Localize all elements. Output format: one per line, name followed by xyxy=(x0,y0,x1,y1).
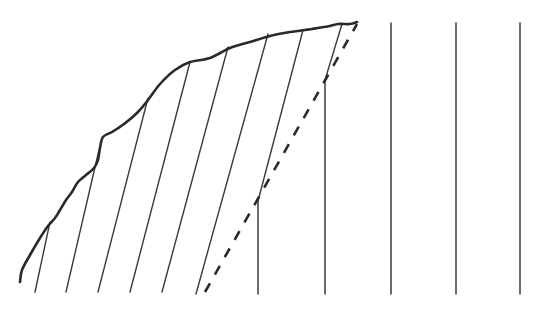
dashed-diagonal-line xyxy=(205,24,357,292)
slanted-line xyxy=(258,30,303,201)
slanted-line xyxy=(196,34,268,294)
slanted-line xyxy=(130,62,190,292)
curve-path xyxy=(20,22,357,282)
slanted-line xyxy=(162,47,228,292)
diagram-canvas xyxy=(0,0,544,309)
dashed-line xyxy=(205,24,357,292)
slanted-line xyxy=(98,98,148,292)
slanted-line xyxy=(325,24,342,80)
curved-boundary xyxy=(20,22,357,282)
line-diagram xyxy=(0,0,544,309)
vertical-lines xyxy=(258,23,520,294)
slanted-hatch-lines xyxy=(35,24,342,294)
slanted-line xyxy=(66,150,99,292)
